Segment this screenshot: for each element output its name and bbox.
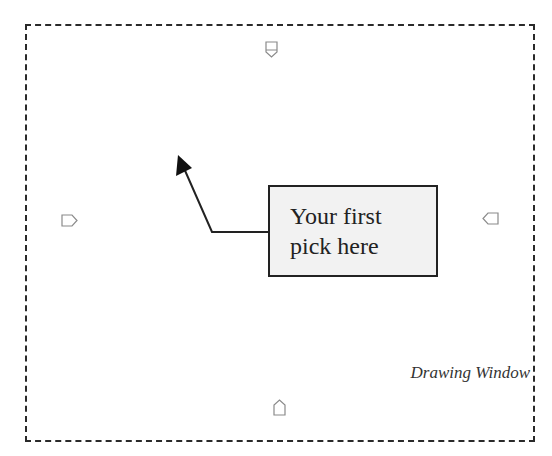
callout-line-1: Your first [290, 201, 436, 231]
bottom-pick-marker-icon[interactable] [274, 400, 285, 415]
drawing-window-label: Drawing Window [411, 363, 531, 383]
right-pick-marker-icon[interactable] [483, 213, 498, 224]
callout-box: Your first pick here [268, 185, 438, 277]
leader-line [183, 166, 269, 232]
callout-line-2: pick here [290, 231, 436, 261]
left-pick-marker-icon[interactable] [62, 215, 77, 226]
top-pick-marker-icon[interactable] [266, 42, 277, 57]
arrowhead-icon [176, 155, 192, 176]
